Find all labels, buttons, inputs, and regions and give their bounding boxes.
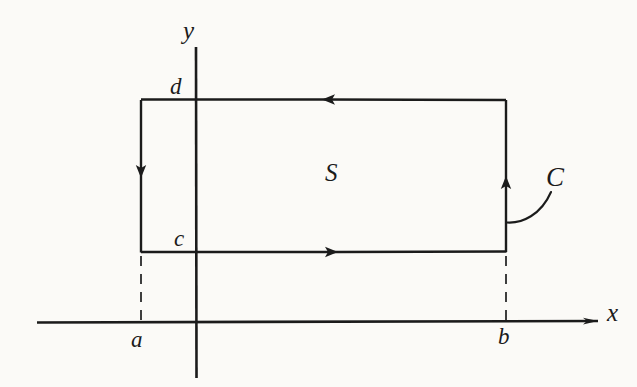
x-axis-line [37, 321, 598, 323]
bound-label-a: a [131, 328, 143, 351]
curve-label-c: C [546, 164, 564, 191]
rect-bottom-edge-tail-segment [338, 252, 507, 253]
figure-canvas: y x d c a b S C [0, 0, 637, 387]
axis-group [37, 47, 598, 378]
x-axis-label: x [607, 300, 618, 325]
region-label-s: S [325, 160, 338, 185]
y-axis-label: y [183, 18, 194, 43]
y-axis-line [196, 47, 197, 378]
bound-label-b: b [498, 325, 510, 348]
rect-top-edge-arrow-segment [322, 100, 506, 101]
diagram-vector-layer [0, 0, 637, 387]
bound-label-d: d [170, 75, 182, 98]
curve-leader-line [507, 192, 551, 223]
bound-label-c: c [174, 227, 184, 250]
